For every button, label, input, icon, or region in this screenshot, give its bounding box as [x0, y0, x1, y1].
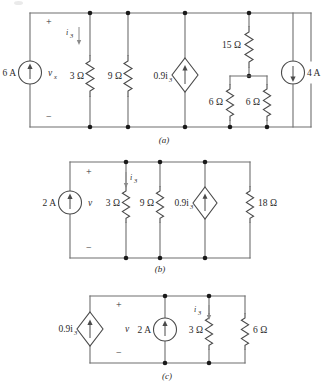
- network-15-6-6-a: 15 Ω 6 Ω 6 Ω: [209, 11, 271, 130]
- circuit-c: 0.9i 3 + − v 2 A 3 Ω: [58, 294, 267, 381]
- current-source-2a-c[interactable]: 2 A: [138, 294, 177, 366]
- svg-text:0.9i: 0.9i: [174, 198, 189, 208]
- node-dot: [124, 256, 129, 261]
- resistor-3ohm-label-b: 3 Ω: [106, 198, 120, 208]
- node-dot: [124, 160, 129, 165]
- current-label-i3-b: i 3: [124, 172, 138, 188]
- circuit-figure: 6 A + − v x 3 Ω i 3: [0, 0, 328, 391]
- branch-dependent-source-b[interactable]: 0.9i 3: [174, 160, 217, 261]
- resistor-3ohm-label-c: 3 Ω: [189, 325, 203, 335]
- svg-text:i: i: [194, 305, 196, 314]
- svg-text:3: 3: [168, 76, 173, 83]
- polarity-minus-b: −: [86, 242, 92, 253]
- branch-3ohm-c: 3 Ω i 3: [189, 294, 213, 366]
- svg-text:3: 3: [133, 177, 138, 184]
- branch-18ohm-b: 18 Ω: [246, 162, 277, 258]
- resistor-9ohm-label-a: 9 Ω: [108, 71, 122, 81]
- current-label-i3-c: i 3: [194, 305, 211, 320]
- resistor-6ohm-left-label-a: 6 Ω: [209, 97, 223, 107]
- svg-text:0.9i: 0.9i: [58, 324, 73, 334]
- node-dot: [207, 294, 212, 299]
- dependent-source-label-c: 0.9i 3: [58, 324, 78, 336]
- svg-text:i: i: [130, 173, 132, 182]
- resistor-15ohm-label-a: 15 Ω: [222, 40, 241, 50]
- dependent-source-label-b: 0.9i 3: [174, 198, 194, 210]
- node-dot: [126, 11, 131, 16]
- node-dot: [158, 160, 163, 165]
- current-label-i3-a: i 3: [66, 27, 81, 45]
- branch-3ohm-a: 3 Ω i 3: [66, 11, 94, 130]
- node-dot: [163, 294, 168, 299]
- caption-a: (a): [159, 135, 170, 145]
- current-source-2a-b[interactable]: 2 A: [43, 191, 82, 214]
- svg-text:v: v: [48, 68, 53, 78]
- voltage-label-v-b: v: [88, 198, 93, 208]
- current-source-6a-label: 6 A: [3, 68, 17, 78]
- svg-text:3: 3: [69, 32, 74, 39]
- branch-dependent-source-a[interactable]: 0.9i 3: [153, 11, 198, 130]
- svg-text:3: 3: [197, 309, 202, 316]
- node-dot: [163, 361, 168, 366]
- dependent-source-c[interactable]: 0.9i 3: [58, 312, 103, 346]
- current-source-6a[interactable]: 6 A: [3, 61, 42, 84]
- node-dot: [265, 125, 270, 130]
- caption-b: (b): [155, 264, 166, 274]
- node-dot: [88, 11, 93, 16]
- branch-9ohm-b: 9 Ω: [140, 160, 164, 261]
- node-dot: [126, 125, 131, 130]
- resistor-6ohm-right-label-a: 6 Ω: [246, 97, 260, 107]
- circuit-b: 2 A + − v 3 Ω i 3 9 Ω: [43, 160, 277, 274]
- polarity-plus-a: +: [46, 16, 52, 27]
- current-source-4a[interactable]: 4 A: [282, 13, 321, 127]
- voltage-label-vx-a: v x: [48, 68, 57, 80]
- dependent-source-label-a: 0.9i 3: [153, 71, 173, 83]
- node-dot: [228, 125, 233, 130]
- node-dot: [207, 361, 212, 366]
- svg-text:i: i: [66, 28, 68, 37]
- node-dot: [183, 125, 188, 130]
- node-dot: [183, 11, 188, 16]
- polarity-plus-b: +: [86, 166, 92, 177]
- polarity-plus-c: +: [116, 299, 122, 310]
- branch-6ohm-c: 6 Ω: [241, 296, 267, 363]
- branch-3ohm-b: 3 Ω i 3: [106, 160, 138, 261]
- svg-text:0.9i: 0.9i: [153, 71, 168, 81]
- node-dot: [247, 11, 252, 16]
- polarity-minus-a: −: [46, 111, 52, 122]
- node-dot: [158, 256, 163, 261]
- resistor-6ohm-label-c: 6 Ω: [253, 325, 267, 335]
- current-source-2a-label-c: 2 A: [138, 325, 152, 335]
- node-dot: [203, 256, 208, 261]
- voltage-label-v-c: v: [125, 324, 130, 334]
- node-dot: [203, 160, 208, 165]
- svg-text:x: x: [53, 73, 57, 80]
- resistor-18ohm-label-b: 18 Ω: [258, 198, 277, 208]
- current-source-2a-label-b: 2 A: [43, 198, 57, 208]
- node-dot: [88, 125, 93, 130]
- resistor-3ohm-label-a: 3 Ω: [70, 71, 84, 81]
- resistor-9ohm-label-b: 9 Ω: [140, 198, 154, 208]
- current-source-4a-label: 4 A: [307, 68, 321, 78]
- polarity-minus-c: −: [116, 347, 122, 358]
- branch-9ohm-a: 9 Ω: [108, 11, 132, 130]
- caption-c: (c): [162, 371, 172, 381]
- circuit-a: 6 A + − v x 3 Ω i 3: [3, 11, 321, 145]
